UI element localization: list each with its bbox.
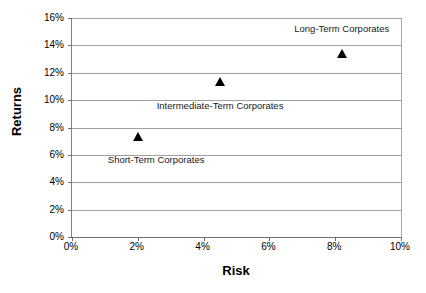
x-axis-tick-label: 2% [117, 241, 157, 252]
x-axis-tick-label: 6% [248, 241, 288, 252]
x-axis-tick-labels: 0%2%4%6%8%10% [0, 0, 426, 293]
chart-container: Returns 0%2%4%6%8%10%12%14%16% Short-Ter… [0, 0, 426, 293]
x-axis-tick-label: 10% [380, 241, 420, 252]
x-axis-tick-label: 0% [51, 241, 91, 252]
x-axis-tick-label: 8% [314, 241, 354, 252]
x-axis-title: Risk [71, 263, 401, 278]
x-axis-tick-label: 4% [183, 241, 223, 252]
